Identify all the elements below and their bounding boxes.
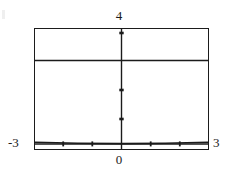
x-axis-min-label: -3 — [8, 136, 19, 149]
plot-axes-and-curves — [34, 28, 209, 150]
graph-figure: 4 0 -3 3 — [0, 0, 238, 173]
y-axis-max-label: 4 — [0, 9, 238, 22]
x-axis-max-label: 3 — [213, 136, 220, 149]
y-axis-min-label: 0 — [0, 153, 238, 166]
